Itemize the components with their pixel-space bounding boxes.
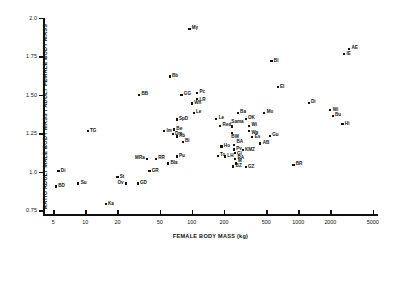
data-point-marker xyxy=(191,102,193,104)
data-point-marker xyxy=(220,145,222,147)
data-point-label: GG xyxy=(184,92,191,97)
data-point-label: SpD xyxy=(179,117,188,122)
data-point-marker xyxy=(196,92,198,94)
data-point-marker xyxy=(269,135,271,137)
x-axis-line xyxy=(43,214,378,216)
x-tick-label: 10 xyxy=(82,219,88,225)
data-point-label: Pc xyxy=(199,90,205,95)
data-point-label: Wi xyxy=(251,123,257,128)
data-point-label: Mo xyxy=(267,110,274,115)
data-point-marker xyxy=(332,115,334,117)
y-tick-label: 1.50 xyxy=(26,92,37,98)
x-tick-label: 200 xyxy=(219,219,228,225)
data-point-label: Bl xyxy=(274,59,279,64)
data-point-label: BD xyxy=(58,184,65,189)
x-tick xyxy=(373,210,374,215)
data-point-marker xyxy=(87,130,89,132)
data-point-marker xyxy=(105,203,107,205)
data-point-label: Bu xyxy=(335,113,341,118)
data-point-marker xyxy=(231,125,233,127)
data-point-label: BA xyxy=(237,140,244,145)
data-point-label: Ho xyxy=(224,144,230,149)
data-point-label: AE xyxy=(351,46,357,51)
x-tick xyxy=(192,210,193,215)
data-point-label: Ba xyxy=(240,110,246,115)
data-point-marker xyxy=(182,141,184,143)
x-tick-label: 50 xyxy=(157,219,163,225)
y-tick-label: 0.75 xyxy=(26,207,37,213)
x-tick xyxy=(53,210,54,215)
data-point-marker xyxy=(155,158,157,160)
plot-area: 0.751.01.251.501.752.0 51020501002005001… xyxy=(43,18,378,215)
data-point-marker xyxy=(172,133,174,135)
data-point-marker xyxy=(237,112,239,114)
y-tick-label: 1.25 xyxy=(26,130,37,136)
data-point-label: Gu xyxy=(272,133,278,138)
data-point-marker xyxy=(137,182,139,184)
data-point-marker xyxy=(180,94,182,96)
data-point-marker xyxy=(146,158,148,160)
data-point-marker xyxy=(234,158,236,160)
data-point-marker xyxy=(57,170,59,172)
data-point-label: BB xyxy=(141,92,148,97)
data-point-label: Pu xyxy=(179,154,185,159)
data-point-label: Su xyxy=(81,181,87,186)
data-point-label: Wh xyxy=(194,101,201,106)
data-point-marker xyxy=(233,144,235,146)
data-point-marker xyxy=(116,176,118,178)
y-axis-title: RATIO ADULT MALE BODY MASS / ADULT FEMAL… xyxy=(42,24,48,209)
y-tick-label: 2.0 xyxy=(29,15,37,21)
data-point-marker xyxy=(242,149,244,151)
data-point-marker xyxy=(217,155,219,157)
figure-scatter-plot: 0.751.01.251.501.752.0 51020501002005001… xyxy=(0,0,395,285)
data-point-marker xyxy=(176,135,178,137)
data-point-marker xyxy=(343,53,345,55)
data-point-label: Bla xyxy=(171,161,178,166)
data-point-label: Ov xyxy=(117,181,123,186)
data-point-label: RR xyxy=(158,156,165,161)
data-point-label: Di xyxy=(61,169,66,174)
x-tick-label: 100 xyxy=(187,219,196,225)
data-point-marker xyxy=(245,118,247,120)
x-tick-label: 1000 xyxy=(292,219,304,225)
x-tick xyxy=(160,210,161,215)
x-tick-label: 2000 xyxy=(324,219,336,225)
data-point-marker xyxy=(55,185,57,187)
data-point-marker xyxy=(292,164,294,166)
data-point-marker xyxy=(215,118,217,120)
data-point-label: Hi xyxy=(345,122,350,127)
x-tick xyxy=(117,210,118,215)
data-point-marker xyxy=(248,125,250,127)
data-point-marker xyxy=(163,130,165,132)
data-point-label: Le xyxy=(196,110,201,115)
x-axis-title-wrap: FEMALE BODY MASS (kg) xyxy=(43,233,378,243)
data-point-label: OK xyxy=(248,116,255,121)
data-point-marker xyxy=(234,152,236,154)
data-point-label: Es xyxy=(255,135,261,140)
data-point-marker xyxy=(188,28,190,30)
data-point-marker xyxy=(259,142,261,144)
data-point-label: LH xyxy=(227,154,233,159)
data-point-marker xyxy=(329,109,331,111)
y-tick-label: 1.75 xyxy=(26,53,37,59)
data-point-marker xyxy=(233,148,235,150)
data-point-marker xyxy=(341,123,343,125)
data-point-marker xyxy=(270,60,272,62)
data-point-marker xyxy=(235,162,237,164)
data-point-marker xyxy=(125,182,127,184)
x-tick xyxy=(330,210,331,215)
x-tick-label: 5000 xyxy=(367,219,379,225)
data-point-marker xyxy=(263,112,265,114)
data-point-marker xyxy=(169,75,171,77)
y-tick xyxy=(39,210,44,211)
data-point-label: BZ xyxy=(236,164,242,169)
data-point-label: Ka xyxy=(108,202,114,207)
data-point-marker xyxy=(176,118,178,120)
data-point-label: Di xyxy=(311,100,316,105)
x-tick xyxy=(266,210,267,215)
data-point-marker xyxy=(167,162,169,164)
x-axis-title: FEMALE BODY MASS (kg) xyxy=(173,233,248,239)
data-point-marker xyxy=(219,125,221,127)
data-point-marker xyxy=(251,136,253,138)
x-tick xyxy=(224,210,225,215)
